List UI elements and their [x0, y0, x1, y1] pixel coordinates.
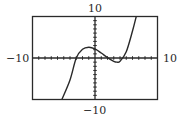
graph-plot — [0, 0, 181, 122]
axes — [33, 17, 158, 100]
